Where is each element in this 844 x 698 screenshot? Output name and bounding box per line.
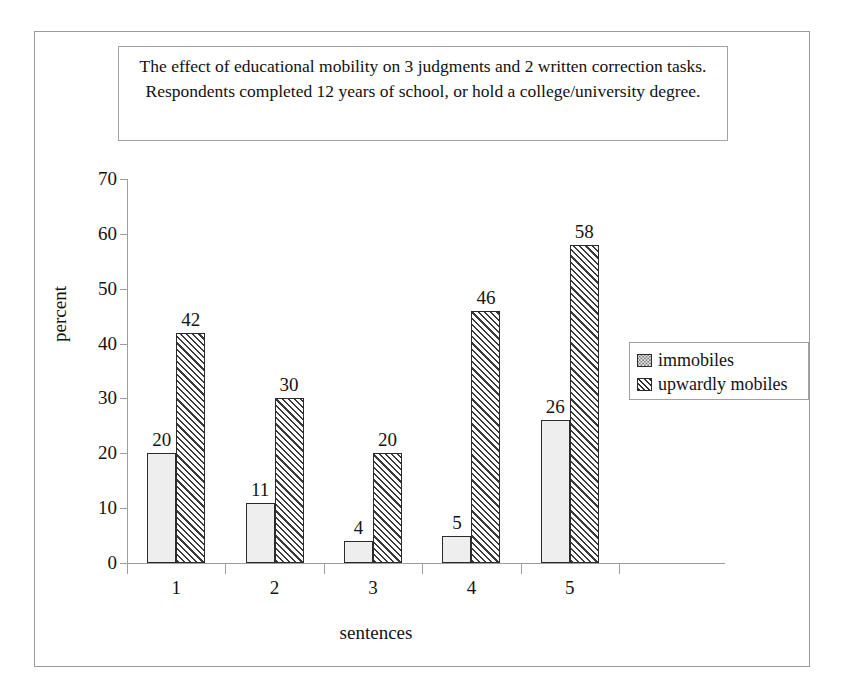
bar-value-label: 58 [575,221,594,243]
legend-item-immobiles: immobiles [637,348,808,372]
y-tick-label: 50 [98,278,117,300]
y-tick-label: 30 [98,387,117,409]
y-tick-mark [120,344,127,345]
bar-upwardly-mobiles-2: 30 [275,398,304,563]
y-tick-mark [120,453,127,454]
chart-title-text: The effect of educational mobility on 3 … [136,54,711,104]
bar-value-label: 20 [378,429,397,451]
bar-value-label: 26 [546,396,565,418]
legend: immobiles upwardly mobiles [629,342,809,400]
y-tick-label: 20 [98,442,117,464]
x-tick-mark [127,564,128,574]
y-tick-label: 70 [98,168,117,190]
bar-immobiles-3: 4 [344,541,373,563]
bar-upwardly-mobiles-1: 42 [176,333,205,563]
x-category-label: 3 [368,577,378,599]
bar-upwardly-mobiles-4: 46 [471,311,500,563]
y-tick-mark [120,179,127,180]
bar-immobiles-4: 5 [442,536,471,563]
chart-title-box: The effect of educational mobility on 3 … [118,46,728,141]
y-tick-label: 0 [108,552,118,574]
bar-immobiles-1: 20 [147,453,176,563]
bar-immobiles-5: 26 [541,420,570,563]
bar-value-label: 46 [476,287,495,309]
x-tick-mark [521,564,522,574]
x-axis-title: sentences [127,622,625,644]
x-tick-mark [324,564,325,574]
y-tick-mark [120,234,127,235]
bar-value-label: 30 [280,374,299,396]
chart-frame: The effect of educational mobility on 3 … [34,31,810,667]
dotted-swatch-icon [637,354,652,367]
bar-value-label: 5 [452,512,462,534]
bar-upwardly-mobiles-3: 20 [373,453,402,563]
legend-item-upwardly-mobiles: upwardly mobiles [637,372,808,396]
y-tick-label: 40 [98,333,117,355]
y-tick-mark [120,289,127,290]
bar-upwardly-mobiles-5: 58 [570,245,599,563]
y-tick-mark [120,508,127,509]
x-axis-line [127,563,725,564]
legend-label-upwardly-mobiles: upwardly mobiles [658,374,787,395]
hatched-swatch-icon [637,378,652,391]
legend-label-immobiles: immobiles [658,350,734,371]
bar-value-label: 11 [251,479,269,501]
x-category-label: 5 [565,577,575,599]
x-category-label: 2 [270,577,280,599]
bar-value-label: 42 [181,309,200,331]
y-tick-mark [120,563,127,564]
x-category-label: 1 [171,577,181,599]
plot-area: 010203040506070 204211304205462658 12345 [127,179,619,563]
x-category-label: 4 [467,577,477,599]
y-axis-title: percent [49,286,71,342]
y-tick-label: 60 [98,223,117,245]
bar-immobiles-2: 11 [246,503,275,563]
bar-value-label: 4 [354,517,364,539]
x-tick-mark [422,564,423,574]
bar-value-label: 20 [152,429,171,451]
y-tick-label: 10 [98,497,117,519]
y-tick-mark [120,398,127,399]
x-tick-mark [619,564,620,574]
x-tick-mark [225,564,226,574]
